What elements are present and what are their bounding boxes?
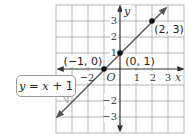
y-tick-2: 2 (111, 31, 117, 42)
point-label-2-3: (2, 3) (154, 23, 184, 36)
x-tick-3: 3 (165, 72, 171, 83)
x-tick-1: 1 (134, 72, 140, 83)
y-tick-neg2: −2 (102, 95, 117, 106)
origin-label: O (106, 71, 115, 84)
callout-plus-one: + 1 (49, 79, 73, 93)
callout-equals: = (25, 79, 42, 93)
y-axis-label: y (123, 5, 131, 18)
point-0-1 (117, 50, 123, 56)
point-label-0-1: (0, 1) (125, 55, 155, 68)
y-tick-neg3: −3 (102, 111, 117, 122)
equation-callout: y = x + 1 (16, 75, 76, 97)
y-tick-3: 3 (111, 15, 117, 26)
coordinate-plane: 3 2 1 −2 −3 −2 1 2 3 O x y (−1, 0) (0, 1… (0, 0, 196, 137)
y-tick-1: 1 (111, 47, 117, 58)
x-tick-2: 2 (150, 72, 156, 83)
point-label-neg1-0: (−1, 0) (64, 55, 103, 68)
x-axis-label: x (175, 71, 182, 84)
